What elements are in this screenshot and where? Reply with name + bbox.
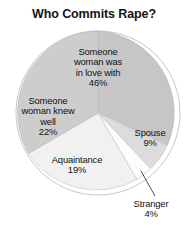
slice-label-knew-well: Someone woman knew well 22% [6, 96, 90, 138]
slice-value-spouse: 9% [124, 138, 176, 148]
slice-label-line1: Aquaintance [52, 154, 102, 165]
slice-label-line1: Someone [28, 95, 67, 106]
slice-label-spouse: Spouse 9% [124, 128, 176, 149]
slice-value-stranger: 4% [118, 209, 184, 219]
slice-value-in-love-with: 46% [52, 78, 144, 88]
slice-label-line2: woman knew [21, 105, 74, 116]
slice-value-aquaintance: 19% [32, 165, 122, 175]
slice-label-line1: Someone [78, 46, 117, 57]
slice-label-stranger: Stranger 4% [118, 199, 184, 220]
slice-label-in-love-with: Someone woman was in love with 46% [52, 47, 144, 89]
slice-label-line1: Stranger [134, 198, 169, 209]
pie-chart-figure: Who Commits Rape? Someone woman was in l… [0, 0, 188, 232]
slice-label-line3: in love with [76, 67, 121, 78]
slice-label-aquaintance: Aquaintance 19% [32, 155, 122, 176]
stranger-leader-line [141, 171, 155, 196]
slice-value-knew-well: 22% [6, 127, 90, 137]
slice-label-line1: Spouse [135, 127, 166, 138]
slice-label-line3: well [40, 116, 56, 127]
slice-label-line2: woman was [74, 56, 122, 67]
